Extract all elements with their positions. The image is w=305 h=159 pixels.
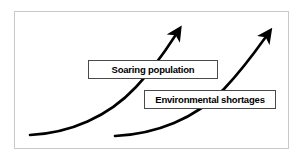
growth-curve-soaring-population: [30, 36, 175, 135]
label-environmental-shortages: Environmental shortages: [144, 90, 276, 109]
growth-curves-layer: [0, 0, 305, 159]
label-environmental-shortages-text: Environmental shortages: [155, 95, 264, 105]
label-soaring-population-text: Soaring population: [112, 65, 195, 75]
diagram-canvas: Soaring population Environmental shortag…: [0, 0, 305, 159]
label-soaring-population: Soaring population: [88, 60, 218, 79]
